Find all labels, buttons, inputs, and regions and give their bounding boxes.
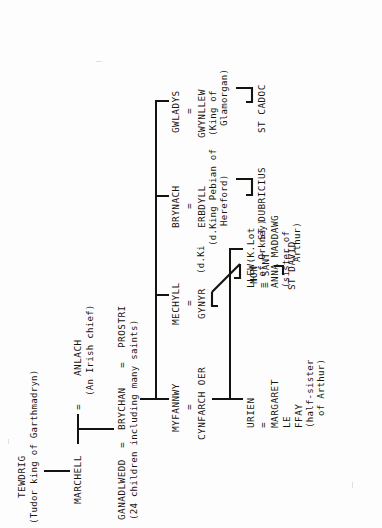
- riser-urien: [229, 398, 243, 400]
- marriage-equals-urien-margaret: =: [257, 422, 268, 428]
- person-anna-maddawg-note-2: Arthur): [292, 222, 303, 262]
- person-margaret-note-2: of Arthur): [316, 359, 327, 416]
- person-margaret-ffay: FFAY: [293, 404, 304, 428]
- sibling-spine-myfannwy-children: [229, 248, 231, 400]
- riser-llew: [229, 248, 243, 250]
- scan-speck: [8, 439, 9, 444]
- person-anna-maddawg: ANNA MADDAWG: [269, 215, 280, 288]
- person-anna-maddawg-note-1: (sister of: [281, 231, 292, 288]
- person-margaret-le: LE: [281, 416, 292, 428]
- genealogy-chart-page: TEWDRIG (Tudor king of Garthmadryn) MARC…: [0, 0, 382, 528]
- descent-line-cynfarch-to-spine: [212, 398, 230, 400]
- person-llew-line-2: = of Orkney): [257, 219, 268, 288]
- person-cynfarch-oer: CYNFARCH OER: [196, 367, 207, 440]
- person-margaret-note-1: (half-sister: [305, 359, 316, 428]
- marriage-equals-myfannwy-cynfarch: =: [183, 404, 194, 410]
- issue-connector-non-stdavid: [0, 0, 382, 528]
- person-urien: URIEN: [245, 398, 256, 428]
- scan-speck: [352, 482, 353, 488]
- scan-speck: [96, 61, 102, 62]
- person-myfannwy: MYFANNWY: [170, 383, 181, 432]
- person-llew: LLEW(K.Lot: [245, 227, 256, 288]
- person-margaret: MARGARET: [269, 379, 280, 428]
- chart-stage: TEWDRIG (Tudor king of Garthmadryn) MARC…: [0, 0, 382, 528]
